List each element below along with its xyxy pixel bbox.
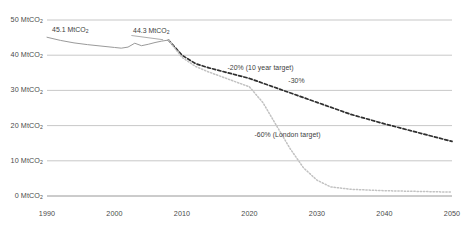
- annotation-peak-value: 44.3 MtCO2: [133, 27, 170, 34]
- x-axis-label-1990: 1990: [27, 209, 67, 218]
- x-axis-label-2030: 2030: [297, 209, 337, 218]
- x-axis-label-2040: 2040: [365, 209, 405, 218]
- annotation-start-value: 45.1 MtCO2: [52, 26, 89, 33]
- y-axis-label-20: 20 MtCO2: [2, 121, 43, 130]
- emissions-projection-chart: 0 MtCO210 MtCO220 MtCO230 MtCO240 MtCO25…: [0, 0, 463, 234]
- series-line-2: [169, 40, 453, 192]
- annotation-london-target: -60% (London target): [255, 131, 321, 138]
- annotation-ten-year-target: -20% (10 year target): [228, 64, 294, 71]
- chart-plot-area: [0, 0, 463, 234]
- x-axis-label-2020: 2020: [230, 209, 270, 218]
- series-line-0: [47, 37, 169, 48]
- y-axis-label-50: 50 MtCO2: [2, 15, 43, 24]
- x-axis-label-2000: 2000: [95, 209, 135, 218]
- leader-line-peak: [131, 35, 163, 39]
- annotation-thirty-percent: -30%: [288, 77, 304, 84]
- x-axis-label-2010: 2010: [162, 209, 202, 218]
- y-axis-label-30: 30 MtCO2: [2, 85, 43, 94]
- y-axis-label-10: 10 MtCO2: [2, 156, 43, 165]
- y-axis-label-40: 40 MtCO2: [2, 50, 43, 59]
- x-axis-label-2050: 2050: [432, 209, 463, 218]
- y-axis-label-0: 0 MtCO2: [2, 191, 43, 200]
